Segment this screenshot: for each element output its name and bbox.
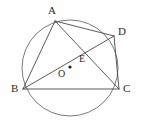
segment-AD [55,21,114,36]
vertex-label-c: C [123,83,130,94]
geometry-figure-canvas: A B C D E O [0,0,142,128]
vertex-label-b: B [11,83,18,94]
center-label-o: O [58,69,65,79]
intersection-label-e: E [79,54,85,64]
geometry-diagram [0,0,142,128]
vertex-label-d: D [118,26,126,37]
center-point-marker [68,65,71,68]
segment-BD [23,36,114,89]
vertex-label-a: A [48,5,56,16]
